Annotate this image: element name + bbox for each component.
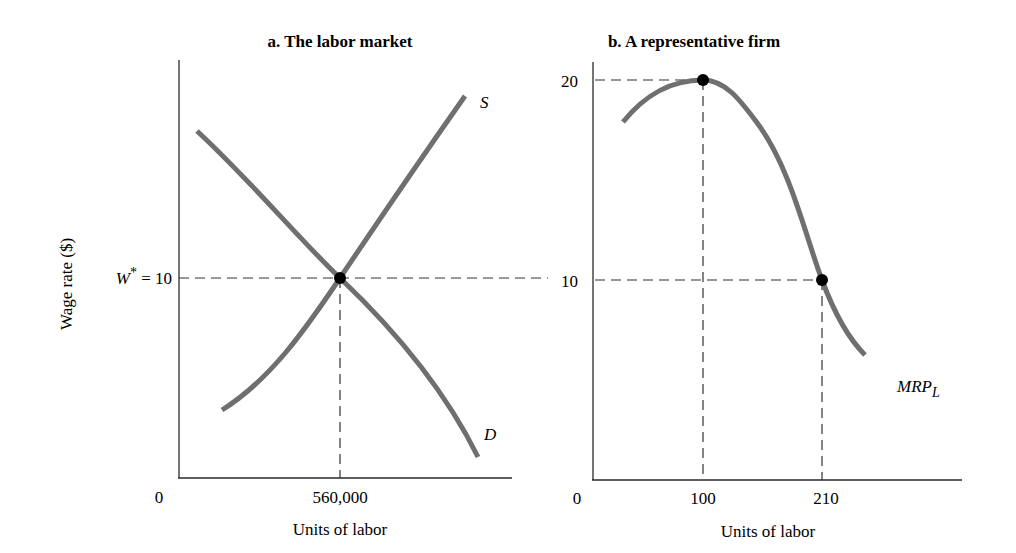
- panel-a-x-tick-560000: 560,000: [312, 488, 367, 507]
- supply-label: S: [480, 93, 489, 112]
- equilibrium-point: [334, 272, 346, 284]
- panel-b-x-label: Units of labor: [721, 522, 816, 541]
- panel-a-title: a. The labor market: [268, 32, 413, 51]
- mrp-point-210: [816, 274, 828, 286]
- panel-a-x-label: Units of labor: [293, 520, 388, 539]
- supply-curve: [222, 96, 465, 410]
- demand-curve: [197, 131, 478, 457]
- mrp-label: MRPL: [896, 377, 940, 400]
- panel-a-labor-market: a. The labor market S D W* = 10 0 560,00…: [57, 32, 548, 539]
- panel-b-x-tick-210: 210: [813, 489, 839, 508]
- panel-b-y-tick-10: 10: [561, 272, 578, 291]
- panel-b-origin: 0: [573, 489, 582, 508]
- mrp-point-100: [697, 74, 709, 86]
- panel-b-x-tick-100: 100: [690, 489, 716, 508]
- panel-b-y-tick-20: 20: [561, 72, 578, 91]
- mrp-curve: [623, 80, 865, 355]
- panel-b-representative-firm: b. A representative firm 20 10 0 100 210…: [561, 32, 962, 541]
- panel-b-title: b. A representative firm: [608, 32, 780, 51]
- wstar-tick: W* = 10: [116, 265, 172, 288]
- figure: a. The labor market S D W* = 10 0 560,00…: [0, 0, 1016, 553]
- y-axis-label: Wage rate ($): [57, 238, 76, 330]
- panel-a-origin: 0: [155, 488, 164, 507]
- demand-label: D: [483, 425, 497, 444]
